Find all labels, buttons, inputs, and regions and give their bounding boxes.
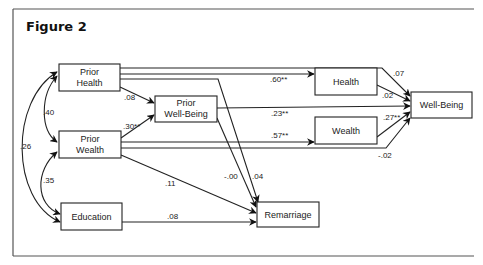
svg-text:Well-Being: Well-Being [164,109,207,119]
svg-text:Remarriage: Remarriage [264,210,311,220]
svg-text:Health: Health [333,77,359,87]
coef-prior-health-prior-wellbeing: .08 [124,93,136,102]
coef-prior-wealth-prior-wellbeing: .30** [123,122,140,131]
node-health: Health [315,68,377,95]
coef-wealth-wellbeing: .27** [383,113,400,122]
coef-prior-health-remarriage: .04 [252,172,264,181]
coef-prior-health-prior-wealth: .40 [43,108,55,117]
node-prior-wealth: Prior Wealth [59,131,121,158]
node-education: Education [61,203,122,230]
svg-text:Wealth: Wealth [76,145,104,155]
node-prior-health: Prior Health [59,64,120,91]
coef-prior-wellbeing-remarriage: -.00 [224,172,238,181]
svg-text:Education: Education [71,212,111,222]
svg-text:Prior: Prior [80,134,99,144]
svg-text:Health: Health [76,78,102,88]
coef-prior-wealth-wellbeing: -.02 [378,151,392,160]
coef-education-remarriage: .08 [167,212,179,221]
coef-prior-health-education: .26 [20,142,32,151]
svg-text:Well-Being: Well-Being [420,100,463,110]
coef-health-wellbeing: .02 [382,91,394,100]
svg-text:Prior: Prior [80,67,99,77]
node-wealth: Wealth [315,117,377,144]
node-prior-wellbeing: Prior Well-Being [155,96,217,122]
figure-title: Figure 2 [26,19,87,34]
coef-prior-wealth-wealth: .57** [271,131,288,140]
path-diagram: Figure 2 .40 .26 .35 .0 [0,0,483,265]
coef-prior-wellbeing-wellbeing: .23** [271,109,288,118]
node-wellbeing: Well-Being [411,92,472,118]
node-remarriage: Remarriage [257,202,319,227]
coef-prior-wealth-education: .35 [43,176,55,185]
coef-prior-wealth-remarriage: .11 [165,179,176,188]
coef-prior-health-wellbeing: .07 [393,69,405,78]
svg-text:Wealth: Wealth [332,126,360,136]
coef-prior-health-health: .60** [270,75,287,84]
svg-text:Prior: Prior [176,98,195,108]
